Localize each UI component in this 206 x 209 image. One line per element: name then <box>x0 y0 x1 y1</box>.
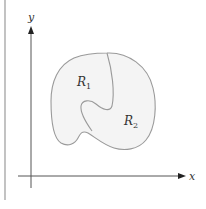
y-axis-label: y <box>27 11 35 24</box>
x-axis-label: x <box>189 170 196 183</box>
x-axis-arrow-icon <box>178 173 186 179</box>
y-axis-arrow-icon <box>28 26 34 34</box>
diagram-canvas: y x R1 R2 <box>0 0 206 209</box>
region-r2-name: R <box>123 114 133 128</box>
region-r2-subscript: 2 <box>133 121 138 130</box>
region-r1-subscript: 1 <box>86 82 91 91</box>
region-r1-name: R <box>76 75 86 89</box>
region-r1-r2-outline <box>51 53 155 150</box>
